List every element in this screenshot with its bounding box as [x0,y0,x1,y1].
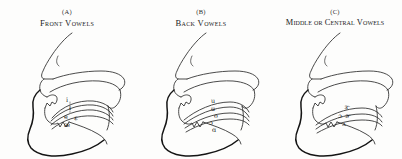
nose-outline [42,33,72,79]
upper-teeth-outline [45,95,57,108]
panel-title-a: Front Vowels [0,19,134,28]
jaw-chin-outline [296,90,372,156]
hard-palate-outline [50,81,120,92]
panel-letter-a: (A) [0,9,134,16]
sagittal-head-diagram-b: u ʊ o ɔ ɑ [134,30,268,159]
vowel-diagram-figure: (A) Front Vowels [0,0,402,159]
hard-palate-outline [318,81,388,92]
lower-teeth-outline [313,108,337,127]
vowel-symbol-4: æ [64,121,70,129]
panel-letter-b: (B) [134,9,268,16]
tongue-base-outline [69,122,107,144]
sagittal-head-diagram-a: i ɪ e ɛ æ [0,30,134,159]
tongue-curve-4 [186,119,249,132]
tongue-curve-3 [51,110,113,125]
upper-lip-outline [308,79,315,97]
vowel-symbol-2: o [214,112,218,120]
upper-lip-outline [174,79,181,97]
upper-teeth-outline [313,95,325,108]
sagittal-head-diagram-c: ɝ ɔ ɚ ʌ [268,30,402,159]
jaw-chin-outline [162,90,238,156]
nostril-icon [325,56,327,66]
panel-title-c: Middle or Central Vowels [268,19,402,27]
vowel-symbol-0: ɝ [345,103,351,111]
pharyngeal-wall-outline [375,106,377,130]
vowel-symbol-0: u [211,97,215,105]
vowel-symbol-2: e [64,113,68,121]
nasal-floor-outline [187,71,259,90]
upper-lip-outline [40,79,47,97]
panel-back-vowels: (B) Back Vowels [134,0,268,159]
panel-front-vowels: (A) Front Vowels [0,0,134,159]
nasal-floor-outline [321,71,393,90]
nasal-floor-outline [53,71,125,90]
soft-palate-outline [376,90,389,108]
vowel-symbol-3: ʌ [341,120,346,128]
upper-teeth-outline [179,95,191,108]
vowel-symbol-3: ɛ [74,114,78,122]
vowel-symbol-1: ɪ [69,104,71,112]
tongue-curve-1 [52,101,113,118]
nostril-icon [191,56,193,66]
nose-outline [310,33,340,79]
nostril-icon [57,56,59,66]
vowel-symbol-0: i [66,96,68,104]
panel-title-b: Back Vowels [134,19,268,28]
vowel-symbol-1: ɔ [338,112,342,120]
soft-palate-outline [108,90,121,108]
panel-letter-c: (C) [268,9,402,16]
nose-outline [176,33,206,79]
vowel-symbol-4: ɑ [212,126,216,134]
panel-central-vowels: (C) Middle or Central Vowels [268,0,402,159]
hard-palate-outline [184,81,254,92]
vowel-symbol-2: ɚ [345,112,351,120]
